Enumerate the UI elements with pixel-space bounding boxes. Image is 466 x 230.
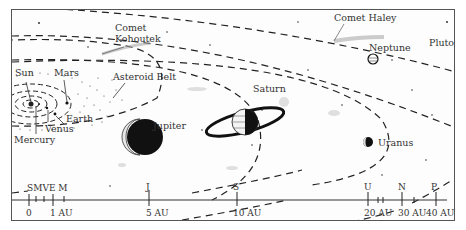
label-comet-kohoutek-line1: Comet <box>115 23 146 33</box>
scale-marker-uranus: U <box>364 182 372 192</box>
label-neptune: Neptune <box>369 43 411 53</box>
earth-icon <box>54 113 57 116</box>
mercury-icon <box>38 103 40 105</box>
scale-tick-40au: 40 AU <box>426 208 454 218</box>
solar-system-diagram: Sun Mars Mercury Venus Earth Asteroid Be… <box>11 9 455 221</box>
orbit-arc-left <box>12 191 28 193</box>
label-jupiter: Jupiter <box>153 121 186 131</box>
venus-icon <box>46 107 48 109</box>
scale-marker-saturn: S <box>233 182 239 192</box>
scale-tick-5au: 5 AU <box>146 208 169 218</box>
comet-kohoutek-tail <box>102 43 150 54</box>
scale-marker-jupiter: J <box>146 182 150 192</box>
label-mars: Mars <box>54 68 79 78</box>
label-mercury: Mercury <box>14 135 55 145</box>
label-uranus: Uranus <box>378 138 413 148</box>
uranus-icon <box>363 137 373 147</box>
scale-marker-pluto: P <box>431 182 437 192</box>
scale-tick-30au: 30 AU <box>398 208 426 218</box>
scale-tick-10au: 10 AU <box>233 208 261 218</box>
label-comet-haley: Comet Haley <box>334 13 396 23</box>
scale-marker-inner-planets: SMVE M <box>27 183 68 193</box>
scale-tick-1au: 1 AU <box>50 208 73 218</box>
scale-tick-0: 0 <box>26 208 32 218</box>
scale-tick-20au: 20 AU <box>364 208 392 218</box>
sun-icon <box>29 102 34 107</box>
label-comet-kohoutek-line2: Kohoutek <box>115 34 161 44</box>
saturn-icon <box>204 102 286 142</box>
label-earth: Earth <box>66 114 93 124</box>
comet-haley-tail <box>334 24 384 41</box>
label-saturn: Saturn <box>253 84 286 94</box>
distance-scale <box>12 190 447 206</box>
label-sun: Sun <box>15 68 34 78</box>
orbit-arc-bottom-1 <box>192 170 302 193</box>
label-venus: Venus <box>45 124 74 134</box>
label-pluto: Pluto <box>429 38 454 48</box>
label-asteroid-belt: Asteroid Belt <box>113 72 176 82</box>
scale-marker-neptune: N <box>398 182 406 192</box>
neptune-icon <box>368 54 378 64</box>
